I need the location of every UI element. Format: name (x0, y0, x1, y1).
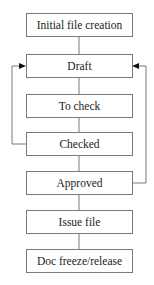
step-label: Approved (57, 177, 103, 189)
step-label: Initial file creation (37, 19, 123, 31)
arrow-right-icon (19, 63, 26, 69)
step-label: To check (59, 100, 101, 112)
loop-approved-to-draft (132, 66, 146, 183)
step-draft: Draft (26, 54, 133, 78)
step-label: Draft (67, 60, 91, 72)
step-doc-freeze-release: Doc freeze/release (26, 249, 133, 273)
step-issue-file: Issue file (26, 210, 133, 234)
loop-checked-to-draft (12, 66, 26, 144)
step-approved: Approved (26, 171, 133, 195)
step-to-check: To check (26, 94, 133, 118)
step-label: Issue file (59, 216, 101, 228)
step-checked: Checked (26, 132, 133, 156)
step-initial-file-creation: Initial file creation (26, 13, 133, 37)
step-label: Checked (59, 138, 99, 150)
arrow-left-icon (132, 63, 139, 69)
step-label: Doc freeze/release (37, 255, 122, 267)
